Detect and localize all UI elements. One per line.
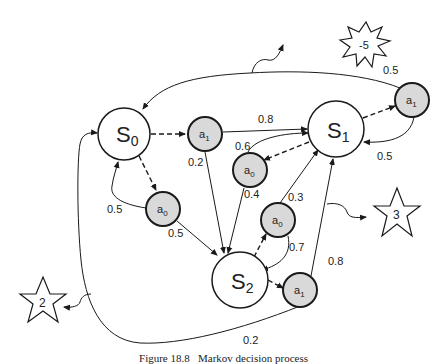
prob-s0a1-s2: 0.2 — [188, 156, 203, 168]
edge-s1a0-s1 — [248, 133, 308, 152]
edge-s1-s1a1 — [363, 106, 395, 118]
prob-s1a1-s0: 0.5 — [383, 64, 398, 76]
action-s0-a1: a1 — [188, 117, 222, 151]
reward-2-value: 2 — [39, 296, 46, 310]
action-s1-a1: a1 — [395, 83, 429, 117]
prob-s1a0-s2: 0.4 — [244, 188, 259, 200]
edge-s1-s1a0 — [264, 142, 309, 160]
figure-caption: Figure 18.8 Markov decision process — [0, 352, 447, 364]
action-s2-a0: a0 — [261, 203, 295, 237]
edge-s2a0-s2 — [262, 236, 289, 270]
reward-neg5-value: -5 — [359, 39, 369, 51]
reward-link-3 — [327, 203, 366, 217]
edge-s2-s2a1 — [268, 280, 283, 288]
edge-s0-s0a0 — [139, 156, 156, 190]
state-s1: S1 — [308, 101, 364, 157]
action-s2-a1: a1 — [283, 273, 317, 307]
action-s1-a0: a0 — [233, 153, 267, 187]
prob-s0a0-s2: 0.5 — [168, 227, 183, 239]
edge-s0a1-s1 — [223, 129, 307, 132]
prob-s2a0-s1: 0.3 — [288, 191, 303, 203]
reward-link-neg5 — [252, 45, 283, 73]
edge-s1a1-s0 — [143, 72, 400, 109]
reward-star-3: 3 — [374, 188, 420, 236]
reward-star-2: 2 — [20, 277, 66, 322]
prob-s1a0-s1: 0.6 — [235, 140, 250, 152]
reward-3-value: 3 — [393, 208, 400, 222]
prob-s1a1-s1: 0.5 — [377, 150, 392, 162]
reward-burst-neg5: -5 — [340, 22, 390, 67]
edge-s1a1-s1 — [364, 117, 414, 142]
prob-s0a0-s0: 0.5 — [107, 203, 122, 215]
action-s0-a0: a0 — [146, 192, 180, 226]
edge-s1a0-s2 — [228, 188, 244, 253]
prob-s2a0-s2: 0.7 — [289, 241, 304, 253]
prob-s0a1-s1: 0.8 — [258, 113, 273, 125]
prob-s2a1-s0: 0.2 — [243, 334, 258, 346]
edge-s0a1-s2 — [205, 152, 224, 253]
state-s0: S0 — [98, 108, 150, 160]
reward-link-2 — [64, 294, 91, 307]
prob-s2a1-s1: 0.8 — [328, 255, 343, 267]
edge-s2-s2a0 — [254, 234, 266, 257]
state-s2: S2 — [212, 252, 268, 308]
edge-s0a0-s0 — [112, 162, 146, 208]
